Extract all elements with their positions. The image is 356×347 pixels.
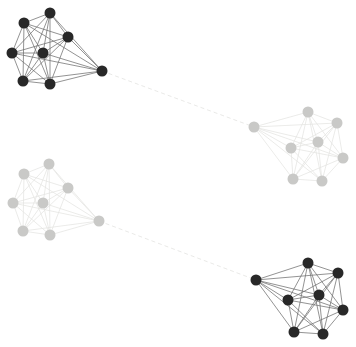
- graph-edge: [23, 71, 102, 81]
- graph-node: [97, 66, 108, 77]
- graph-node: [18, 226, 29, 237]
- graph-node: [289, 327, 300, 338]
- graph-node: [333, 268, 344, 279]
- graph-node: [63, 183, 74, 194]
- graph-node: [44, 159, 55, 170]
- graph-edge: [318, 142, 322, 181]
- graph-node: [303, 258, 314, 269]
- graph-node: [38, 198, 49, 209]
- graph-node: [45, 230, 56, 241]
- graph-node: [303, 107, 314, 118]
- graph-node: [18, 76, 29, 87]
- graph-node: [318, 329, 329, 340]
- cluster-edges-bottom-right-dark: [256, 263, 343, 334]
- bridge-edge: [99, 221, 256, 280]
- graph-edge: [23, 174, 24, 231]
- graph-node: [251, 275, 262, 286]
- graph-node: [314, 290, 325, 301]
- cluster-nodes-top-left-dark: [7, 8, 108, 90]
- graph-edge: [254, 127, 291, 148]
- graph-node: [338, 153, 349, 164]
- graph-edge: [50, 221, 99, 235]
- graph-edge: [256, 280, 288, 300]
- graph-node: [63, 32, 74, 43]
- graph-node: [38, 48, 49, 59]
- graph-node: [7, 48, 18, 59]
- bridge-edge: [102, 71, 254, 127]
- graph-node: [8, 198, 19, 209]
- graph-node: [317, 176, 328, 187]
- graph-node: [288, 174, 299, 185]
- graph-node: [338, 305, 349, 316]
- graph-edge: [256, 273, 338, 280]
- graph-edge: [23, 221, 99, 231]
- network-graph-canvas: [0, 0, 356, 347]
- graph-edge: [23, 23, 24, 81]
- cluster-edges-middle-right-light: [254, 112, 343, 181]
- graph-node: [313, 137, 324, 148]
- graph-node: [286, 143, 297, 154]
- graph-edge: [50, 71, 102, 84]
- graph-node: [45, 8, 56, 19]
- graph-node: [19, 18, 30, 29]
- network-figure: [0, 0, 356, 347]
- graph-node: [332, 118, 343, 129]
- graph-node: [19, 169, 30, 180]
- graph-node: [249, 122, 260, 133]
- graph-node: [94, 216, 105, 227]
- graph-node: [45, 79, 56, 90]
- graph-node: [283, 295, 294, 306]
- graph-edge: [319, 295, 323, 334]
